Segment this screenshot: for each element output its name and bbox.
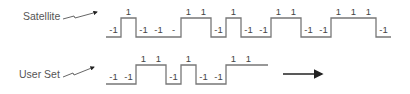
user-set-bit-label: -1 bbox=[169, 71, 177, 82]
satellite-bit-label: 1 bbox=[291, 6, 296, 17]
satellite-pointer-icon bbox=[63, 12, 97, 19]
user-set-bit-label: 1 bbox=[186, 53, 191, 64]
user-set-bit-label: 1 bbox=[156, 53, 161, 64]
satellite-bit-labels: -11-1-1-11-11-1-111-1-1111-1 bbox=[109, 6, 387, 35]
user-set-bit-label: -1 bbox=[124, 71, 132, 82]
satellite-bit-label: -1 bbox=[154, 24, 162, 35]
satellite-bit-label: -1 bbox=[139, 24, 147, 35]
user-set-bit-label: 1 bbox=[231, 53, 236, 64]
satellite-bit-label: - bbox=[172, 24, 175, 35]
satellite-bit-label: -1 bbox=[214, 24, 222, 35]
satellite-bit-label: 1 bbox=[366, 6, 371, 17]
satellite-bit-label: 1 bbox=[351, 6, 356, 17]
satellite-bit-label: 1 bbox=[276, 6, 281, 17]
user-set-bit-label: -1 bbox=[214, 71, 222, 82]
user-set-bit-label: 1 bbox=[141, 53, 146, 64]
user-set-bit-label: -1 bbox=[109, 71, 117, 82]
satellite-bit-label: 1 bbox=[186, 6, 191, 17]
user-set-bit-labels: -1-111-11-1-111 bbox=[109, 53, 251, 82]
satellite-bit-label: -1 bbox=[319, 24, 327, 35]
satellite-label: Satellite bbox=[23, 10, 61, 22]
satellite-bit-label: 1 bbox=[201, 6, 206, 17]
user-set-label: User Set bbox=[19, 68, 60, 80]
satellite-bit-label: 1 bbox=[231, 6, 236, 17]
waveform-diagram: Satellite -11-1-1-11-11-1-111-1-1111-1 U… bbox=[0, 0, 410, 94]
satellite-bit-label: 1 bbox=[126, 6, 131, 17]
satellite-bit-label: -1 bbox=[259, 24, 267, 35]
user-set-pointer-icon bbox=[63, 67, 94, 77]
satellite-bit-label: -1 bbox=[244, 24, 252, 35]
user-set-bit-label: -1 bbox=[199, 71, 207, 82]
satellite-bit-label: -1 bbox=[109, 24, 117, 35]
satellite-bit-label: 1 bbox=[336, 6, 341, 17]
satellite-bit-label: -1 bbox=[379, 24, 387, 35]
user-set-bit-label: 1 bbox=[246, 53, 251, 64]
satellite-bit-label: -1 bbox=[304, 24, 312, 35]
